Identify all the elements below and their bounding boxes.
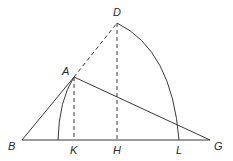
label-A: A	[61, 65, 69, 77]
arc-DL	[117, 23, 179, 140]
geometry-diagram: D A B K H L G	[0, 0, 233, 161]
label-K: K	[70, 144, 78, 156]
segment-AG	[74, 77, 210, 140]
label-L: L	[176, 144, 182, 156]
label-G: G	[214, 140, 223, 152]
label-D: D	[113, 6, 121, 18]
label-B: B	[8, 140, 15, 152]
segment-AD-dashed	[74, 23, 117, 77]
segment-BA	[22, 77, 74, 140]
label-H: H	[113, 144, 121, 156]
